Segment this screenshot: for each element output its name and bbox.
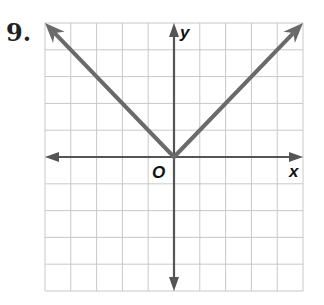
origin-label: O [152,163,165,182]
y-axis-label: y [179,23,191,42]
x-axis-label: x [288,162,300,181]
coordinate-graph: x y O [0,0,324,305]
